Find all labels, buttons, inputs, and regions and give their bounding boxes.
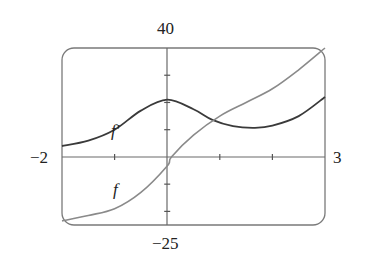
f-curve	[62, 48, 325, 221]
x-max-label: 3	[333, 149, 342, 166]
axis-ticks	[115, 75, 273, 211]
f-label: f	[113, 181, 118, 198]
f-prime-curve	[62, 97, 325, 146]
y-min-label: −25	[152, 235, 179, 252]
f-prime-label: f′	[111, 122, 119, 139]
y-max-label: 40	[157, 20, 174, 37]
x-min-label: −2	[30, 149, 48, 166]
plot-area	[0, 0, 367, 265]
